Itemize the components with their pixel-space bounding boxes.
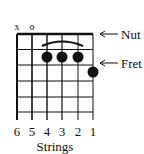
finger-dot-string-3 [57,52,68,63]
finger-dot-string-1 [88,67,99,78]
strings-caption: Strings [37,140,74,153]
string-number-3: 3 [59,125,66,138]
string-number-6: 6 [14,125,21,138]
chord-grid [0,0,144,154]
string-number-5: 5 [29,125,36,138]
fret-label: Fret [121,57,142,70]
finger-dot-string-2 [73,52,84,63]
nut-label: Nut [121,28,141,41]
open-string-marker: o [30,22,35,32]
string-number-1: 1 [90,125,97,138]
string-number-2: 2 [75,125,82,138]
string-number-4: 4 [44,125,51,138]
muted-string-marker: x [15,22,20,32]
finger-dot-string-4 [42,52,53,63]
